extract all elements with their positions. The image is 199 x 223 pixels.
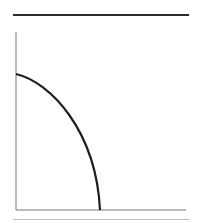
chart-plot bbox=[0, 0, 199, 223]
curve-line bbox=[16, 74, 100, 210]
bottom-rule bbox=[13, 219, 189, 220]
